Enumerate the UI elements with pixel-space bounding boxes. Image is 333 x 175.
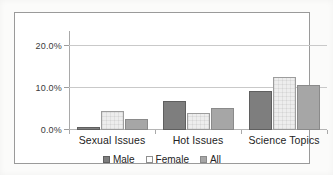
legend-label: All [210, 154, 221, 165]
chart-container: 0.0%10.0%20.0% Sexual IssuesHot IssuesSc… [0, 0, 333, 175]
x-tick-mark [327, 130, 328, 134]
legend-label: Male [113, 154, 135, 165]
legend-swatch-icon [146, 156, 153, 163]
bar-all[interactable] [211, 108, 234, 130]
bar-female[interactable] [273, 77, 296, 130]
legend-swatch-icon [103, 156, 110, 163]
legend-item-all[interactable]: All [200, 154, 221, 165]
y-axis-tick-label: 0.0% [41, 125, 62, 135]
chart-frame: 0.0%10.0%20.0% Sexual IssuesHot IssuesSc… [14, 12, 310, 164]
x-axis-category-labels: Sexual IssuesHot IssuesScience Topics [69, 134, 327, 152]
legend-swatch-icon [200, 156, 207, 163]
y-axis-tick-label: 10.0% [35, 83, 62, 93]
legend-item-female[interactable]: Female [146, 154, 189, 165]
bar-all[interactable] [125, 119, 148, 130]
bar-male[interactable] [249, 91, 272, 130]
chart-legend: MaleFemaleAll [15, 154, 309, 165]
y-axis-tick-label: 20.0% [35, 41, 62, 51]
legend-item-male[interactable]: Male [103, 154, 135, 165]
plot-area [69, 35, 327, 130]
bar-all[interactable] [297, 85, 320, 130]
bar-female[interactable] [101, 111, 124, 130]
bar-group [69, 35, 155, 130]
legend-label: Female [156, 154, 189, 165]
bar-female[interactable] [187, 113, 210, 130]
y-axis-labels: 0.0%10.0%20.0% [15, 35, 62, 130]
x-tick-mark [69, 130, 70, 134]
x-axis-category-label: Science Topics [241, 134, 327, 146]
x-axis-category-label: Hot Issues [155, 134, 241, 146]
bar-group [155, 35, 241, 130]
x-axis-category-label: Sexual Issues [69, 134, 155, 146]
bar-group [241, 35, 327, 130]
bar-male[interactable] [77, 127, 100, 130]
bar-male[interactable] [163, 101, 186, 130]
